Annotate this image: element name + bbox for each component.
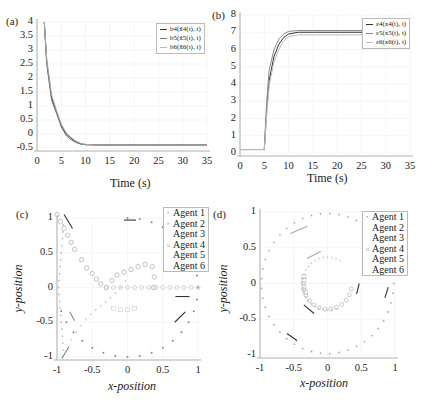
line-swatch-icon [366,33,373,34]
panel-a-letter: (a) [6,15,18,27]
panel-d-ylabel: y-position [216,259,231,319]
legend-label: Agent 5 [372,254,404,265]
tick-label: 1 [392,363,397,374]
tick-label: 25 [153,156,164,167]
line-swatch-icon [366,24,373,25]
tick-label: 1 [28,100,33,111]
tick-label: -1 [247,349,256,360]
tick-label: 1.5 [20,86,33,97]
tick-label: -1 [53,365,62,376]
legend-entry: Agent 6 [366,265,404,276]
tick-label: 1 [48,212,53,223]
legend-entry: ε5(x5(t), t) [366,29,406,38]
panel-b-legend: ε4(x4(t), t) ε5(x5(t), t) ε6(x6(t), t) [362,18,410,49]
tick-label: 35 [202,156,213,167]
panel-c-letter: (c) [16,208,28,220]
tick-label: -0.5 [36,316,53,327]
tick-label: 3 [231,95,236,106]
tick-label: 10 [283,161,294,172]
panel-b-xlabel: Time (s) [307,172,348,184]
legend-entry: Agent 3 [167,229,205,240]
dot-marker-icon: • [167,219,171,230]
legend-entry: ε4(x4(t), t) [366,20,406,29]
tick-label: 7 [231,26,236,37]
tick-label: 0 [231,147,236,158]
tick-label: 20 [332,161,343,172]
tick-label: 2 [231,113,236,124]
panel-d-xlabel: x-position [300,377,348,389]
legend-label: ε5(x5(t), t) [376,29,406,38]
circle-marker-icon: o [366,244,370,255]
legend-entry: Agent 5 [366,254,404,265]
tick-label: 3 [28,44,33,55]
tick-label: 0.5 [156,365,169,376]
tick-label: 2 [28,72,33,83]
legend-entry: b4(x̂4(t), t) [160,25,201,34]
panel-d-letter: (d) [213,208,226,220]
panel-c-legend: •Agent 1 •Agent 2 Agent 3 oAgent 4 Agent… [163,207,209,272]
legend-entry: Agent 3 [366,233,404,244]
tick-label: 15 [105,156,116,167]
tick-label: 0 [28,128,33,139]
tick-label: 5 [231,61,236,72]
legend-label: ε4(x4(t), t) [376,20,406,29]
tick-label: -0.5 [84,365,101,376]
tick-label: 1 [251,206,256,217]
tick-label: 30 [177,156,188,167]
tick-label: 35 [405,161,416,172]
tick-label: 8 [231,9,236,20]
tick-label: 0.5 [355,363,368,374]
legend-entry: •Agent 1 [167,208,205,219]
tick-label: -0.5 [285,363,302,374]
panel-c-ylabel: y-position [11,259,26,319]
legend-entry: Agent 5 [167,250,205,261]
tick-label: 0 [237,161,242,172]
tick-label: 0 [325,363,330,374]
figure-canvas [0,0,424,405]
legend-label: Agent 6 [372,265,404,276]
legend-label: Agent 6 [173,261,205,272]
tick-label: 10 [80,156,91,167]
panel-b-letter: (b) [212,9,225,21]
legend-label: b5(x̂5(t), t) [170,34,201,43]
panel-a-xlabel: Time (s) [110,177,151,189]
tick-label: 1 [231,130,236,141]
tick-label: -0.5 [16,142,33,153]
panel-c-xlabel: x-position [108,380,156,392]
legend-label: b4(x̂4(t), t) [170,25,201,34]
dot-marker-icon: • [167,208,171,219]
tick-label: -1 [256,363,265,374]
tick-label: -1 [44,351,53,362]
tick-label: 0.5 [243,242,256,253]
tick-label: 30 [380,161,391,172]
legend-entry: b6(x̂6(t), t) [160,43,201,52]
legend-label: Agent 1 [372,212,404,223]
tick-label: -0.5 [239,313,256,324]
line-swatch-icon [366,42,373,43]
legend-label: Agent 3 [372,233,404,244]
legend-label: Agent 1 [173,208,205,219]
legend-label: b6(x̂6(t), t) [170,43,201,52]
tick-label: 0.5 [40,247,53,258]
tick-label: 0 [251,278,256,289]
tick-label: 0.5 [20,114,33,125]
circle-marker-icon: o [167,240,171,251]
tick-label: 4 [28,16,33,27]
tick-label: 5 [262,161,267,172]
tick-label: 20 [129,156,140,167]
legend-label: Agent 5 [173,250,205,261]
panel-a-legend: b4(x̂4(t), t) b5(x̂5(t), t) b6(x̂6(t), t… [156,23,205,54]
tick-label: 0 [125,365,130,376]
tick-label: 0 [34,156,39,167]
legend-entry: ε6(x6(t), t) [366,38,406,47]
legend-entry: •Agent 1 [366,212,404,223]
tick-label: 0 [48,282,53,293]
dot-marker-icon: • [366,212,370,223]
line-swatch-icon [160,38,167,39]
line-swatch-icon [160,29,167,30]
legend-entry: b5(x̂5(t), t) [160,34,201,43]
legend-entry: Agent 6 [167,261,205,272]
tick-label: 5 [59,156,64,167]
tick-label: 2.5 [20,58,33,69]
line-swatch-icon [160,47,167,48]
